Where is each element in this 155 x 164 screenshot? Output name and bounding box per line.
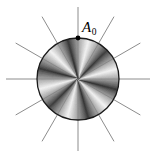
marker-dot-a0 xyxy=(76,36,81,41)
label-a0: A0 xyxy=(82,20,96,35)
label-a0-letter: A xyxy=(82,19,91,35)
label-a0-subscript: 0 xyxy=(92,27,97,37)
shaded-disk-diagram xyxy=(0,0,155,164)
figure-container: A0 xyxy=(0,0,155,164)
